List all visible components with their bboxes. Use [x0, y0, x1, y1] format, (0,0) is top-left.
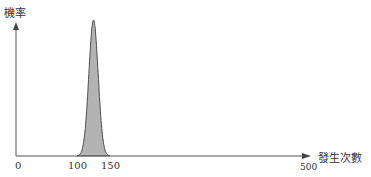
probability-chart — [0, 0, 371, 177]
x-axis-label: 發生次數 — [318, 149, 362, 165]
y-axis-label: 機率 — [4, 4, 26, 20]
x-tick-150: 150 — [101, 160, 120, 171]
x-tick-0: 0 — [15, 160, 21, 171]
x-axis-arrow-icon — [302, 153, 311, 159]
x-tick-500: 500 — [300, 162, 317, 172]
distribution-curve — [77, 20, 110, 156]
y-axis-arrow-icon — [13, 22, 19, 30]
x-tick-100: 100 — [68, 160, 87, 171]
